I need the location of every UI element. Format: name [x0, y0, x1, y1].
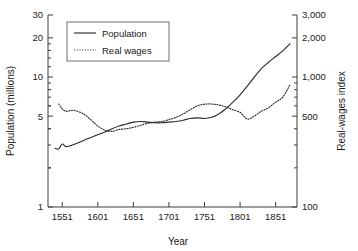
- legend-label-population: Population: [102, 28, 147, 39]
- x-tick-label: 1751: [194, 211, 215, 222]
- x-axis-title: Year: [168, 236, 189, 247]
- y2-tick-label: 1,000: [302, 71, 326, 82]
- y-tick-label: 20: [32, 32, 43, 43]
- x-tick-label: 1601: [87, 211, 108, 222]
- y-tick-label: 1: [38, 201, 43, 212]
- x-tick-label: 1651: [123, 211, 144, 222]
- legend: Population Real wages: [67, 22, 169, 61]
- y2-tick-label: 3,000: [302, 9, 326, 20]
- y-tick-label: 30: [32, 9, 43, 20]
- left-axis-ticks: 15102030: [32, 9, 53, 212]
- y2-tick-label: 100: [302, 201, 318, 212]
- y2-tick-label: 2,000: [302, 32, 326, 43]
- x-tick-label: 1701: [158, 211, 179, 222]
- x-tick-label: 1801: [230, 211, 251, 222]
- y2-axis-title: Real-wages index: [336, 71, 347, 151]
- chart-svg: 15102030 1005001,0002,0003,000 155116011…: [0, 0, 358, 251]
- legend-label-real-wages: Real wages: [102, 45, 152, 56]
- series-line-real-wages: [59, 85, 290, 131]
- y2-tick-label: 500: [302, 111, 318, 122]
- y-axis-title: Population (millions): [5, 66, 16, 156]
- chart-figure: 15102030 1005001,0002,0003,000 155116011…: [0, 0, 358, 251]
- x-tick-label: 1551: [52, 211, 73, 222]
- x-tick-label: 1851: [265, 211, 286, 222]
- y-tick-label: 10: [32, 71, 43, 82]
- y-tick-label: 5: [38, 111, 43, 122]
- x-axis-ticks: 1551160116511701175118011851: [52, 202, 287, 222]
